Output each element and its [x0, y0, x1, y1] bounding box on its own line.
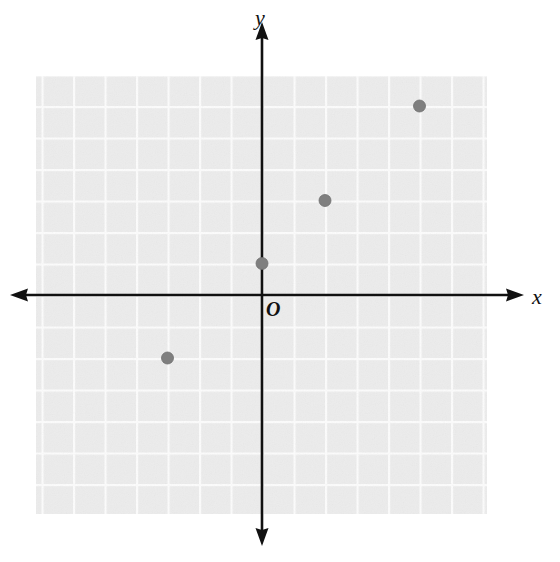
data-point: [319, 195, 331, 207]
coordinate-plane-figure: y x O: [0, 0, 560, 562]
x-axis-label: x: [532, 286, 542, 308]
data-point: [162, 352, 174, 364]
x-axis-arrow-right: [506, 289, 524, 302]
x-axis-arrow-left: [10, 289, 28, 302]
data-point: [256, 258, 268, 270]
y-axis-label: y: [255, 7, 265, 29]
coordinate-plane-svg: [0, 0, 560, 562]
data-point: [414, 100, 426, 112]
origin-label: O: [266, 299, 280, 319]
y-axis-arrow-down: [256, 528, 269, 546]
